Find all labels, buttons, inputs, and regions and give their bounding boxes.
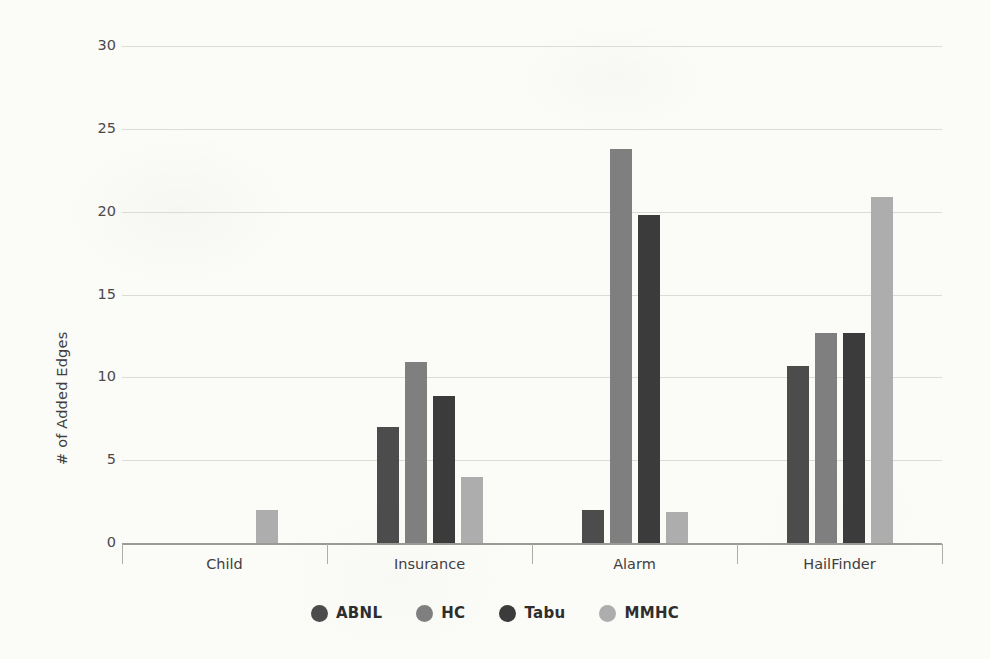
legend-marker-circle-icon [416, 605, 433, 622]
chart-legend: ABNLHCTabuMMHC [0, 604, 990, 622]
bar-mmhc-child [256, 510, 278, 543]
bar-mmhc-insurance [461, 477, 483, 543]
bar-mmhc-alarm [666, 512, 688, 543]
bar-hc-alarm [610, 149, 632, 543]
y-axis-tick-label: 5 [64, 452, 116, 467]
y-axis-tick-label: 0 [64, 535, 116, 550]
bar-hc-insurance [405, 362, 427, 543]
x-axis-group-separator [942, 544, 943, 564]
y-axis-tick-label: 15 [64, 287, 116, 302]
bar-chart-figure: # of Added Edges 051015202530 ChildInsur… [0, 0, 990, 659]
bar-mmhc-hailfinder [871, 197, 893, 543]
legend-label: HC [441, 604, 465, 622]
legend-marker-circle-icon [499, 605, 516, 622]
bar-tabu-alarm [638, 215, 660, 543]
bar-tabu-insurance [433, 396, 455, 543]
bar-hc-hailfinder [815, 333, 837, 543]
x-axis-category-label-alarm: Alarm [532, 556, 737, 572]
legend-label: ABNL [336, 604, 382, 622]
legend-item-tabu: Tabu [499, 604, 565, 622]
y-axis-tick-label: 10 [64, 369, 116, 384]
legend-marker-circle-icon [599, 605, 616, 622]
bar-abnl-insurance [377, 427, 399, 543]
x-axis-category-label-hailfinder: HailFinder [737, 556, 942, 572]
x-axis-category-label-child: Child [122, 556, 327, 572]
legend-label: Tabu [524, 604, 565, 622]
y-axis-tick-labels: 051015202530 [56, 46, 116, 543]
x-axis-category-label-insurance: Insurance [327, 556, 532, 572]
legend-item-mmhc: MMHC [599, 604, 679, 622]
legend-label: MMHC [624, 604, 679, 622]
legend-marker-circle-icon [311, 605, 328, 622]
bars-layer [122, 46, 942, 543]
y-axis-tick-label: 20 [64, 204, 116, 219]
legend-item-abnl: ABNL [311, 604, 382, 622]
legend-item-hc: HC [416, 604, 465, 622]
bar-abnl-alarm [582, 510, 604, 543]
bar-abnl-hailfinder [787, 366, 809, 543]
y-axis-tick-label: 30 [64, 38, 116, 53]
y-axis-tick-label: 25 [64, 121, 116, 136]
bar-tabu-hailfinder [843, 333, 865, 543]
